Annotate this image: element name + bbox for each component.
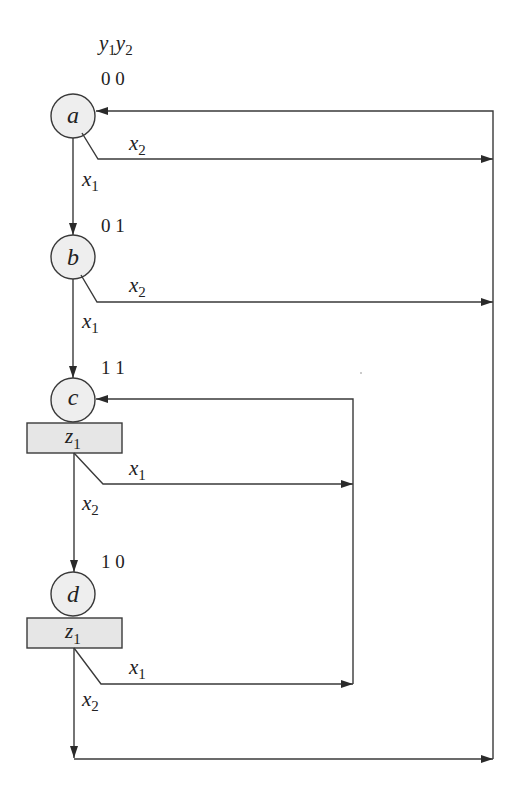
edge-return-to-a xyxy=(96,111,493,759)
cond-c-x2: x2 xyxy=(81,491,99,518)
state-code-c: 1 1 xyxy=(101,357,125,378)
edge-c-x1 xyxy=(74,453,353,484)
cond-d-x2: x2 xyxy=(81,687,99,714)
cond-b-x1: x1 xyxy=(81,309,99,336)
state-node-a: a xyxy=(51,94,95,138)
edge-d-x1 xyxy=(74,648,353,684)
state-code-b: 0 1 xyxy=(101,215,125,236)
state-code-a: 0 0 xyxy=(101,68,125,89)
edge-return-to-c xyxy=(96,399,353,684)
state-node-c: c xyxy=(51,378,95,422)
output-box-c: z1 xyxy=(27,423,122,453)
header-y1y2: y1y2 xyxy=(97,31,133,58)
state-label-a: a xyxy=(67,102,79,128)
diagram-svg: y1y2 0 0 a x1 x2 0 1 b x1 x2 1 1 c z1 xyxy=(0,0,516,800)
state-node-b: b xyxy=(51,235,95,279)
state-code-d: 1 0 xyxy=(101,551,125,572)
state-node-d: d xyxy=(51,572,95,616)
cond-d-x1: x1 xyxy=(128,655,146,682)
cond-c-x1: x1 xyxy=(128,456,146,483)
asm-diagram: y1y2 0 0 a x1 x2 0 1 b x1 x2 1 1 c z1 xyxy=(0,0,516,800)
cond-a-x1: x1 xyxy=(81,167,99,194)
cond-a-x2: x2 xyxy=(128,131,146,158)
cond-b-x2: x2 xyxy=(128,273,146,300)
stray-dot xyxy=(360,372,362,374)
state-label-c: c xyxy=(68,384,79,410)
state-label-d: d xyxy=(67,581,80,607)
state-label-b: b xyxy=(67,244,79,270)
output-box-d: z1 xyxy=(27,618,122,648)
